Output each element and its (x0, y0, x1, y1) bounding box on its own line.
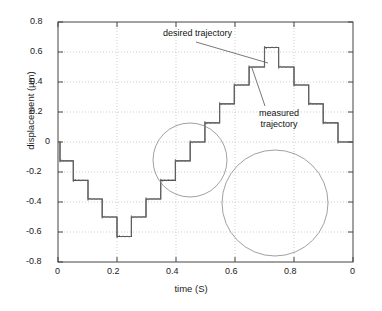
x-tick-label-2: 0.4 (166, 266, 179, 276)
x-tick-label-4: 0.8 (284, 266, 297, 276)
y-tick-label-0: 0.8 (30, 16, 43, 26)
x-tick-label-1: 0.2 (107, 266, 120, 276)
annotation-desired-trajectory: desired trajectory (163, 28, 232, 39)
x-tick-label-5: 0 (350, 266, 355, 276)
y-tick-label-4: 0 (45, 136, 50, 146)
y-tick-label-7: -0.6 (26, 226, 42, 236)
x-axis-title: time (S) (0, 283, 382, 294)
y-tick-label-6: -0.4 (26, 196, 42, 206)
annotation-measured-line2: trajectory (243, 119, 315, 130)
y-axis-title: displacement (µm) (25, 26, 36, 196)
annotation-measured-trajectory: measured trajectory (243, 108, 315, 130)
annotation-measured-line1: measured (243, 108, 315, 119)
x-tick-label-3: 0.6 (225, 266, 238, 276)
figure-chart-displacement-vs-time: 0.8 0.6 0.4 0.2 0 -0.2 -0.4 -0.6 -0.8 0 … (0, 0, 382, 311)
chart-canvas (0, 0, 382, 311)
x-tick-label-0: 0 (55, 266, 60, 276)
y-tick-label-8: -0.8 (26, 256, 42, 266)
